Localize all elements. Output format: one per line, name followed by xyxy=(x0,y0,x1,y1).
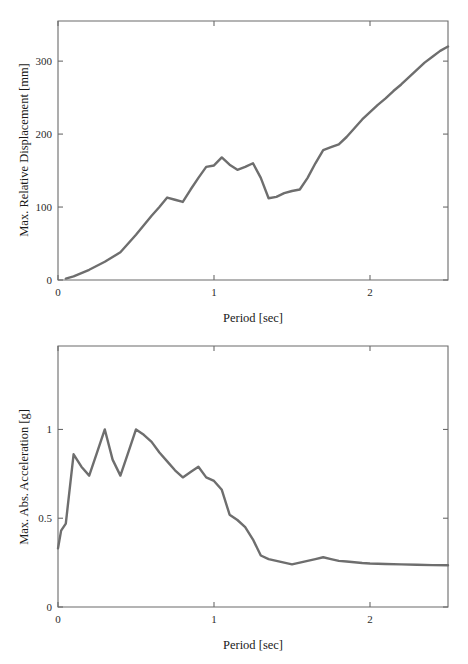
data-line-displacement xyxy=(66,47,448,279)
y-tick-label: 200 xyxy=(36,128,53,140)
y-tick-label: 0.5 xyxy=(38,512,52,524)
x-tick-label: 0 xyxy=(55,613,61,625)
x-axis-title: Period [sec] xyxy=(223,638,283,652)
x-tick-label: 2 xyxy=(367,286,373,298)
y-axis-title: Max. Relative Displacement [mm] xyxy=(17,63,31,237)
x-axis-title: Period [sec] xyxy=(223,311,283,325)
data-line-acceleration xyxy=(58,429,448,565)
chart-panel-acceleration: 00.51012Period [sec]Max. Abs. Accelerati… xyxy=(0,332,468,664)
y-tick-label: 0 xyxy=(47,601,53,613)
chart-panel-displacement: 0100200300012Period [sec]Max. Relative D… xyxy=(0,0,468,332)
plot-box xyxy=(58,21,448,280)
y-tick-label: 100 xyxy=(36,201,53,213)
y-tick-label: 300 xyxy=(36,55,53,67)
x-tick-label: 1 xyxy=(211,613,217,625)
acceleration-chart: 00.51012Period [sec]Max. Abs. Accelerati… xyxy=(0,332,468,664)
y-axis-title: Max. Abs. Acceleration [g] xyxy=(17,409,31,545)
x-tick-label: 1 xyxy=(211,286,217,298)
y-tick-label: 1 xyxy=(47,423,53,435)
displacement-chart: 0100200300012Period [sec]Max. Relative D… xyxy=(0,0,468,332)
figure-stack: 0100200300012Period [sec]Max. Relative D… xyxy=(0,0,468,664)
plot-box xyxy=(58,346,448,607)
y-tick-label: 0 xyxy=(47,274,53,286)
x-tick-label: 2 xyxy=(367,613,373,625)
x-tick-label: 0 xyxy=(55,286,61,298)
